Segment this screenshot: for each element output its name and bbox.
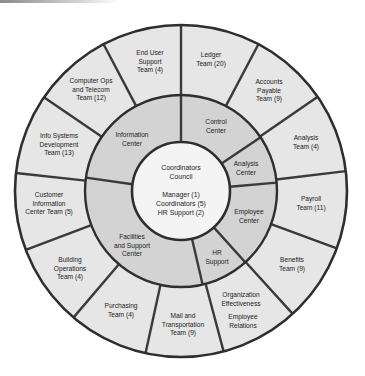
team-organization-effectiveness: Organization Effectiveness (221, 291, 260, 308)
team-payroll: Payroll Team (11) (296, 195, 325, 212)
team-mail-transportation: Mail and Transportation Team (9) (162, 312, 204, 338)
center-information: Information Center (116, 131, 149, 148)
team-customer-information: Customer Information Center Team (5) (25, 191, 73, 217)
council-roles: Manager (1) Coordinators (5) HR Support … (156, 190, 206, 217)
team-employee-relations: Employee Relations (228, 313, 257, 330)
team-ledger: Ledger Team (20) (196, 51, 226, 68)
team-building-operations: Building Operations Team (4) (54, 256, 86, 282)
center-facilities: Facilities and Support Center (114, 233, 150, 259)
center-control: Control Center (205, 118, 226, 135)
team-purchasing: Purchasing Team (4) (105, 302, 138, 319)
team-accounts-payable: Accounts Payable Team (9) (255, 78, 282, 104)
center-employee: Employee Center (234, 208, 263, 225)
team-end-user-support: End User Support Team (4) (136, 49, 164, 75)
team-info-systems-development: Info Systems Development Team (13) (40, 132, 79, 158)
council-title: Coordinators Council (161, 163, 200, 181)
team-analysis: Analysis Team (4) (293, 134, 319, 151)
team-benefits: Benefits Team (9) (279, 256, 305, 273)
center-analysis: Analysis Center (234, 160, 259, 177)
team-computer-ops-telecom: Computer Ops and Telecom Team (12) (70, 77, 113, 103)
center-hr-support: HR Support (205, 249, 228, 266)
